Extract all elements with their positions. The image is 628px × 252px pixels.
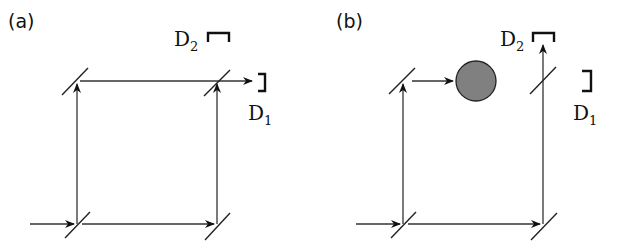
mirror-bottom-right <box>531 213 557 240</box>
obstacle-circle <box>456 61 496 101</box>
detector-d2-icon <box>208 33 229 42</box>
panel-label: (b) <box>336 10 363 32</box>
detector-d1-icon <box>258 74 265 91</box>
detector-d2-label: D2 <box>500 27 524 54</box>
detector-d1-label: D1 <box>248 101 272 128</box>
panel-a: (a) D1 D2 <box>8 10 272 240</box>
detector-d2-icon <box>533 33 554 42</box>
detector-d1-label: D1 <box>573 101 597 128</box>
detector-d2-label: D2 <box>174 27 198 54</box>
panel-label: (a) <box>8 10 34 32</box>
panel-b: (b) D1 D2 <box>336 10 597 240</box>
detector-d1-icon <box>582 71 591 91</box>
mirror-top-left <box>389 68 415 94</box>
